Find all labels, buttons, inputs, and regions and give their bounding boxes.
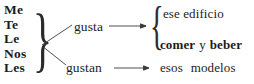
target-esos-modelos: esosmodelos (160, 60, 236, 76)
target-comer-y-beber: comerybeber (160, 37, 242, 53)
target-word-modelos: modelos (191, 60, 236, 75)
arrow-gustan (114, 66, 149, 70)
verb-gusta: gusta (74, 19, 103, 35)
branch-lines (42, 25, 72, 65)
gustar-grammar-diagram: Me Te Le Nos Les } gusta gustan { ese ed… (0, 0, 254, 84)
target-word-esos: esos (160, 60, 183, 75)
target-ese-edificio: ese edificio (163, 6, 224, 22)
branch-line-lower (42, 46, 66, 65)
target-word-comer: comer (160, 37, 195, 52)
arrow-gusta (109, 24, 146, 28)
target-word-beber: beber (210, 37, 242, 52)
verb-gustan: gustan (66, 60, 102, 76)
target-word-y: y (199, 37, 206, 52)
branch-line-upper (42, 25, 72, 45)
